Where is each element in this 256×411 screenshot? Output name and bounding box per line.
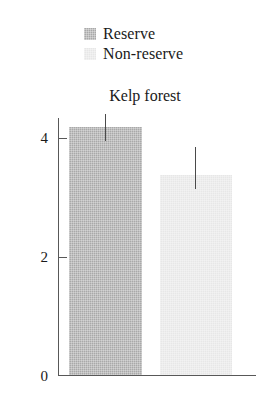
y-tick-label-4: 4 xyxy=(24,131,48,146)
y-tick-label-0: 0 xyxy=(24,369,48,384)
x-axis-line xyxy=(58,375,256,376)
y-tick-label-2: 2 xyxy=(24,250,48,265)
errorbar-non-reserve xyxy=(195,147,196,189)
y-axis-line xyxy=(58,118,59,376)
bar-reserve xyxy=(69,127,142,375)
errorbar-reserve xyxy=(105,114,106,141)
bar-non-reserve xyxy=(160,175,232,375)
bar-chart-figure: Reserve Non-reserve Kelp forest 4 2 0 xyxy=(0,0,256,411)
y-tick-mark-2 xyxy=(59,257,67,258)
y-tick-mark-4 xyxy=(59,138,67,139)
plot-area: 4 2 0 xyxy=(0,0,256,411)
